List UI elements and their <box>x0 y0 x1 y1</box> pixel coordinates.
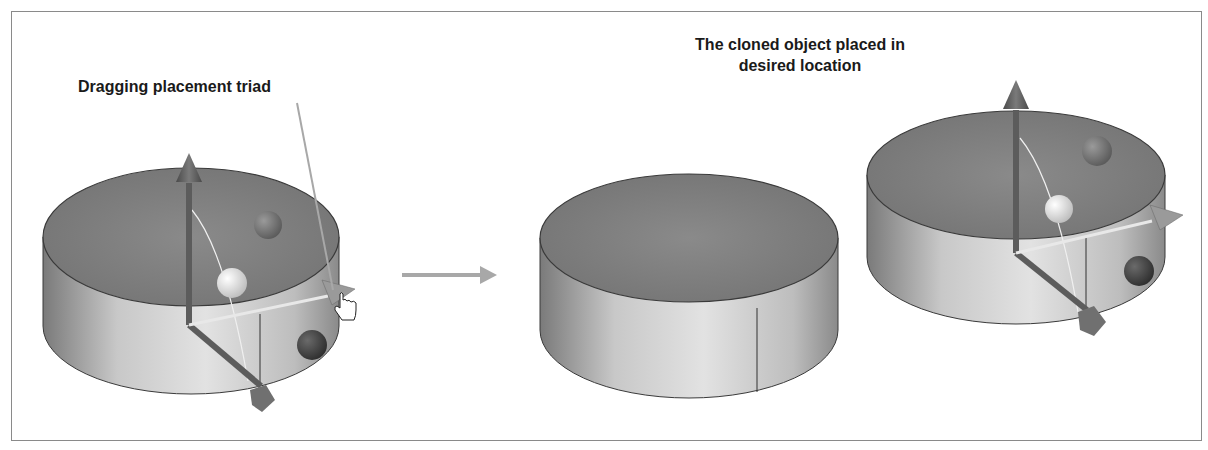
dragging-triad-label: Dragging placement triad <box>78 76 271 97</box>
scene-original-cylinder <box>43 103 356 412</box>
cloned-object-label-line1: The cloned object placed in <box>650 34 950 55</box>
cloned-object-label-line2: desired location <box>650 55 950 76</box>
scene-cloned-cylinder <box>867 80 1183 336</box>
scene-plain-cylinder <box>540 174 838 398</box>
transition-arrow-icon <box>402 266 497 284</box>
diagram-canvas <box>0 0 1208 450</box>
cloned-object-label: The cloned object placed in desired loca… <box>650 34 950 76</box>
